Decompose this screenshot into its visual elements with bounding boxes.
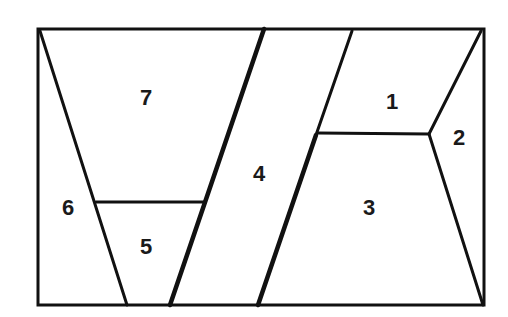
region-label-7: 7 bbox=[140, 85, 152, 110]
boundary-1-3 bbox=[318, 133, 429, 134]
region-label-6: 6 bbox=[62, 195, 74, 220]
region-label-3: 3 bbox=[363, 195, 375, 220]
boundary-3-2 bbox=[429, 134, 483, 305]
partition-diagram: 1 2 3 4 5 6 7 bbox=[0, 0, 508, 317]
region-label-4: 4 bbox=[253, 161, 266, 186]
region-label-2: 2 bbox=[453, 125, 465, 150]
boundary-4-1 bbox=[316, 31, 352, 135]
region-label-5: 5 bbox=[140, 234, 152, 259]
boundary-1-2 bbox=[429, 31, 481, 134]
boundary-6-7-5 bbox=[40, 31, 127, 305]
boundary-4-3 bbox=[258, 135, 316, 305]
boundary-7-5-4 bbox=[170, 29, 264, 305]
region-label-1: 1 bbox=[386, 89, 398, 114]
